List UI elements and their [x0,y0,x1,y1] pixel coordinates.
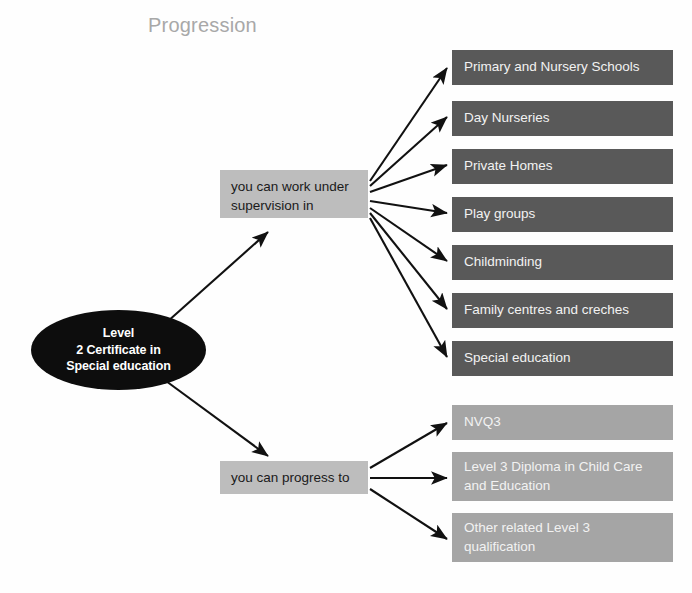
outcome-box-private-homes[interactable]: Private Homes [452,149,673,184]
page-title: Progression [148,14,257,37]
outcome-box-level-3-diploma[interactable]: Level 3 Diploma in Child Careand Educati… [452,452,673,501]
root-node-line-3: Special education [66,358,171,375]
outcome-label-line-1: Level 3 Diploma in Child Care [464,459,643,474]
diagram-canvas: Progression Level 2 Certificate in Speci… [0,0,692,593]
edge-work-to-target-2 [370,117,447,186]
branch-label-line-1: you can progress to [231,468,350,487]
edge-progress-to-target-1 [370,423,447,468]
outcome-box-primary-and-nursery-schools[interactable]: Primary and Nursery Schools [452,50,673,85]
outcome-label: Childminding [464,253,542,271]
outcome-box-childminding[interactable]: Childminding [452,245,673,280]
root-node-label: Level 2 Certificate in Special education [60,325,177,375]
root-node-line-1: Level [66,325,171,342]
outcome-label: Family centres and creches [464,301,629,319]
outcome-label: Private Homes [464,157,553,175]
edge-work-to-target-6 [370,213,447,309]
branch-label-line-2: supervision in [231,198,314,213]
outcome-label: NVQ3 [464,413,501,431]
edge-progress-to-target-3 [370,489,447,539]
outcome-box-play-groups[interactable]: Play groups [452,197,673,232]
outcome-box-day-nurseries[interactable]: Day Nurseries [452,101,673,136]
outcome-label: Primary and Nursery Schools [464,58,640,76]
outcome-label-line-1: Other related Level 3 [464,520,590,535]
root-node-line-2: 2 Certificate in [66,342,171,359]
branch-label-line-1: you can work under [231,179,349,194]
outcome-box-other-related-level-3[interactable]: Other related Level 3qualification [452,513,673,562]
outcome-box-nvq3[interactable]: NVQ3 [452,405,673,440]
edge-root-to-work [167,232,268,322]
outcome-box-special-education[interactable]: Special education [452,341,673,376]
root-node-oval[interactable]: Level 2 Certificate in Special education [31,310,206,390]
edge-work-to-target-3 [370,165,447,192]
outcome-label: Play groups [464,205,535,223]
edge-work-to-target-7 [370,218,447,357]
outcome-label: Day Nurseries [464,109,550,127]
outcome-box-family-centres-and-creches[interactable]: Family centres and creches [452,293,673,328]
edge-work-to-target-1 [370,68,447,181]
edge-work-to-target-4 [370,201,447,213]
outcome-label: Special education [464,349,571,367]
outcome-label: Level 3 Diploma in Child Careand Educati… [464,458,643,495]
outcome-label-line-2: and Education [464,478,550,493]
edge-root-to-progress [166,381,268,456]
branch-label-progress-to[interactable]: you can progress to [220,461,368,494]
edge-work-to-target-5 [370,208,447,261]
outcome-label: Other related Level 3qualification [464,519,590,556]
branch-label-work-under-supervision[interactable]: you can work under supervision in [220,170,368,218]
outcome-label-line-2: qualification [464,539,535,554]
